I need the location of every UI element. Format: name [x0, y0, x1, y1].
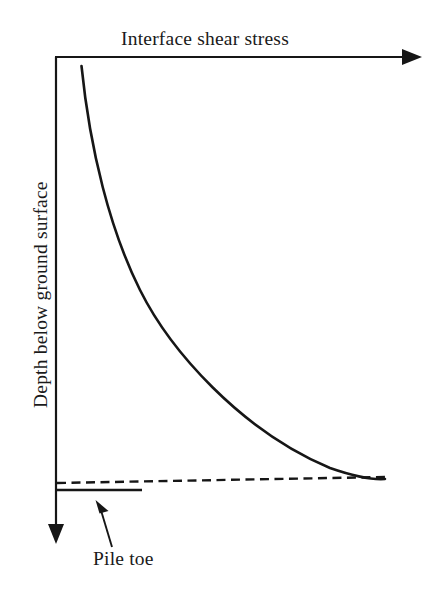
ground-dashed-line — [57, 477, 385, 483]
shear-stress-curve — [82, 66, 386, 479]
diagram-graphics — [0, 0, 428, 593]
figure-canvas: Interface shear stress Depth below groun… — [0, 0, 428, 593]
x-axis-arrowhead-icon — [402, 49, 422, 65]
pile-toe-label: Pile toe — [93, 548, 154, 570]
x-axis-title: Interface shear stress — [0, 28, 410, 50]
pile-toe-pointer-arrowhead-icon — [96, 500, 109, 514]
y-axis-arrowhead-icon — [48, 524, 64, 544]
y-axis-title: Depth below ground surface — [30, 181, 52, 408]
pile-toe-pointer-line — [102, 512, 113, 547]
